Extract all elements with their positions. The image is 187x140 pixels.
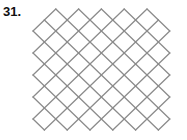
diamond-lattice-figure xyxy=(0,0,187,140)
lattice-segment xyxy=(56,9,67,20)
lattice-segment xyxy=(101,108,112,119)
lattice-segment xyxy=(90,86,101,97)
lattice-segment xyxy=(56,64,67,75)
lattice-segment xyxy=(44,9,55,20)
lattice-segment xyxy=(124,86,135,97)
lattice-segment xyxy=(113,75,124,86)
lattice-segment xyxy=(56,119,67,130)
lattice-segment xyxy=(158,31,169,42)
lattice-segment xyxy=(79,97,90,108)
lattice-segment xyxy=(33,53,44,64)
lattice-segment xyxy=(158,119,169,130)
lattice-segment xyxy=(67,119,78,130)
lattice-segment xyxy=(101,53,112,64)
lattice-segment xyxy=(67,31,78,42)
lattice-segment xyxy=(101,31,112,42)
lattice-segment xyxy=(124,42,135,53)
lattice-segment xyxy=(67,9,78,20)
lattice-segment xyxy=(79,64,90,75)
lattice-segment xyxy=(67,53,78,64)
lattice-segment xyxy=(90,75,101,86)
lattice-segment xyxy=(113,53,124,64)
lattice-segment xyxy=(136,119,147,130)
lattice-segment xyxy=(44,97,55,108)
lattice-segment xyxy=(136,20,147,31)
lattice-segment xyxy=(147,42,158,53)
lattice-segment xyxy=(79,75,90,86)
lattice-segment xyxy=(147,86,158,97)
lattice-segment xyxy=(136,64,147,75)
lattice-segment xyxy=(158,86,169,97)
lattice-segment xyxy=(136,86,147,97)
lattice-segment xyxy=(44,86,55,97)
lattice-segment xyxy=(44,42,55,53)
lattice-segment xyxy=(147,97,158,108)
lattice-segment xyxy=(56,53,67,64)
lattice-segment xyxy=(67,42,78,53)
lattice-segment xyxy=(90,64,101,75)
lattice-segment xyxy=(101,86,112,97)
lattice-segment xyxy=(136,108,147,119)
lattice-segment xyxy=(90,53,101,64)
lattice-lines xyxy=(33,9,170,130)
lattice-segment xyxy=(147,20,158,31)
lattice-segment xyxy=(158,20,169,31)
lattice-segment xyxy=(90,31,101,42)
lattice-segment xyxy=(79,9,90,20)
lattice-segment xyxy=(79,42,90,53)
lattice-segment xyxy=(124,31,135,42)
lattice-segment xyxy=(79,119,90,130)
lattice-segment xyxy=(101,20,112,31)
lattice-segment xyxy=(113,42,124,53)
lattice-segment xyxy=(33,64,44,75)
lattice-segment xyxy=(124,97,135,108)
lattice-segment xyxy=(101,97,112,108)
lattice-segment xyxy=(90,97,101,108)
lattice-segment xyxy=(56,42,67,53)
lattice-segment xyxy=(113,119,124,130)
lattice-segment xyxy=(158,64,169,75)
lattice-segment xyxy=(44,64,55,75)
lattice-segment xyxy=(158,75,169,86)
lattice-segment xyxy=(44,108,55,119)
lattice-segment xyxy=(33,31,44,42)
lattice-segment xyxy=(56,20,67,31)
lattice-segment xyxy=(33,119,44,130)
lattice-segment xyxy=(56,31,67,42)
lattice-segment xyxy=(44,75,55,86)
lattice-segment xyxy=(124,20,135,31)
lattice-segment xyxy=(56,86,67,97)
lattice-segment xyxy=(67,20,78,31)
lattice-segment xyxy=(113,20,124,31)
lattice-segment xyxy=(147,31,158,42)
lattice-segment xyxy=(44,53,55,64)
lattice-segment xyxy=(67,86,78,97)
lattice-segment xyxy=(79,86,90,97)
lattice-segment xyxy=(136,9,147,20)
lattice-segment xyxy=(33,86,44,97)
lattice-segment xyxy=(90,119,101,130)
lattice-segment xyxy=(101,42,112,53)
lattice-segment xyxy=(67,97,78,108)
lattice-segment xyxy=(113,9,124,20)
lattice-segment xyxy=(113,108,124,119)
lattice-segment xyxy=(113,97,124,108)
lattice-segment xyxy=(67,64,78,75)
lattice-segment xyxy=(124,119,135,130)
lattice-segment xyxy=(136,31,147,42)
lattice-segment xyxy=(56,97,67,108)
lattice-segment xyxy=(147,53,158,64)
lattice-segment xyxy=(90,20,101,31)
lattice-segment xyxy=(101,9,112,20)
lattice-segment xyxy=(147,9,158,20)
lattice-segment xyxy=(67,108,78,119)
lattice-segment xyxy=(79,31,90,42)
lattice-segment xyxy=(90,9,101,20)
lattice-segment xyxy=(136,53,147,64)
lattice-segment xyxy=(136,42,147,53)
lattice-segment xyxy=(147,108,158,119)
lattice-segment xyxy=(136,97,147,108)
lattice-segment xyxy=(147,119,158,130)
lattice-segment xyxy=(124,64,135,75)
lattice-segment xyxy=(158,108,169,119)
